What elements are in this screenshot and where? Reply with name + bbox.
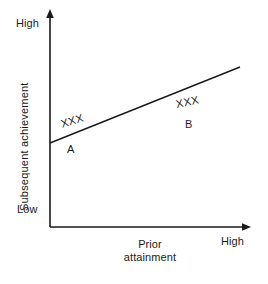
trend-line bbox=[50, 67, 240, 143]
x-axis-arrowhead-icon bbox=[242, 223, 251, 231]
x-axis-high-label: High bbox=[221, 235, 244, 247]
group-b-label: B bbox=[185, 118, 192, 130]
x-axis-title: Prior attainment bbox=[108, 238, 192, 264]
group-a-label: A bbox=[67, 143, 74, 155]
y-axis-arrowhead-icon bbox=[46, 9, 54, 18]
x-axis bbox=[50, 223, 251, 231]
x-axis-title-line-2: attainment bbox=[108, 251, 192, 264]
page-edge-artifact: ................................ bbox=[0, 277, 268, 281]
y-axis bbox=[46, 9, 54, 227]
y-axis-title: Subsequent achievement bbox=[18, 82, 30, 211]
y-axis-high-label: High bbox=[16, 17, 39, 29]
scatter-schematic-figure: High Low Subsequent achievement High Pri… bbox=[0, 0, 268, 284]
x-axis-title-line-1: Prior bbox=[138, 238, 162, 250]
